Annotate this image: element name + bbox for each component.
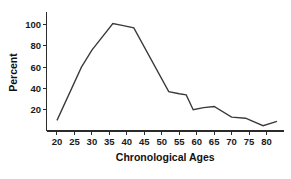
chart-figure: 2040608010020253035404550556065707580Chr… xyxy=(0,0,291,179)
y-axis-title: Percent xyxy=(7,53,19,92)
x-axis-title: Chronological Ages xyxy=(116,151,215,163)
chart-canvas: 2040608010020253035404550556065707580Chr… xyxy=(0,0,291,179)
x-tick-label-65: 65 xyxy=(209,136,220,147)
x-tick-label-25: 25 xyxy=(69,136,80,147)
x-tick-label-30: 30 xyxy=(87,136,98,147)
x-tick-label-55: 55 xyxy=(174,136,185,147)
x-tick-label-75: 75 xyxy=(244,136,255,147)
x-tick-label-35: 35 xyxy=(104,136,115,147)
x-tick-label-80: 80 xyxy=(261,136,272,147)
x-tick-label-60: 60 xyxy=(191,136,202,147)
y-tick-label-100: 100 xyxy=(25,19,41,30)
y-tick-label-60: 60 xyxy=(30,62,41,73)
y-tick-label-20: 20 xyxy=(30,104,41,115)
y-tick-label-40: 40 xyxy=(30,83,41,94)
x-tick-label-45: 45 xyxy=(139,136,150,147)
x-tick-label-70: 70 xyxy=(226,136,237,147)
x-tick-label-20: 20 xyxy=(52,136,63,147)
x-tick-label-40: 40 xyxy=(122,136,133,147)
y-tick-label-80: 80 xyxy=(30,40,41,51)
data-line-percent xyxy=(57,24,277,126)
x-tick-label-50: 50 xyxy=(156,136,167,147)
